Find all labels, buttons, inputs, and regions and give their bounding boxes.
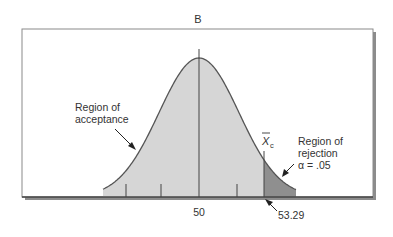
normal-distribution-chart: B X c Region of acceptance Region of rej… (0, 0, 393, 237)
critical-symbol-x: X (261, 135, 270, 147)
rejection-label-line1: Region of (298, 135, 343, 147)
rejection-label-line2: rejection (298, 147, 338, 159)
acceptance-label-line1: Region of (75, 101, 120, 113)
mean-tick-label: 50 (193, 206, 205, 218)
critical-tick-label: 53.29 (278, 209, 304, 221)
critical-symbol-subscript: c (270, 141, 274, 150)
rejection-label-alpha: α = .05 (298, 159, 331, 171)
acceptance-label-line2: acceptance (75, 113, 129, 125)
critical-value-arrow-icon (265, 199, 277, 211)
chart-title: B (194, 13, 201, 25)
